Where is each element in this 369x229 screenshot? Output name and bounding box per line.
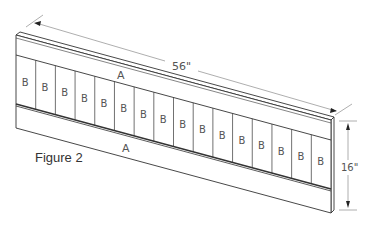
arrow-right-icon	[330, 108, 337, 113]
board-label: B	[317, 156, 324, 167]
board-label: B	[61, 87, 68, 98]
height-label: 16"	[341, 162, 358, 173]
board-label: B	[101, 98, 108, 109]
arrow-up-icon	[346, 123, 350, 130]
width-extension-right	[335, 104, 352, 115]
arrow-left-icon	[34, 21, 41, 26]
top-rail-label: A	[117, 69, 125, 82]
board-label: B	[160, 114, 167, 125]
board-label: B	[81, 93, 88, 104]
board-label: B	[297, 151, 304, 162]
width-extension-left	[26, 15, 43, 27]
board-label: B	[140, 109, 147, 120]
board-label: B	[258, 140, 265, 151]
board-label: B	[219, 130, 226, 141]
width-label: 56"	[172, 60, 191, 73]
board-label: B	[42, 82, 49, 93]
board-label: B	[179, 119, 186, 130]
bottom-rail-label: A	[122, 142, 130, 155]
board-label: B	[199, 124, 206, 135]
arrow-down-icon	[346, 201, 350, 208]
panel-diagram: 56" 16" BBBBBBBBBBBBBBBB A A Figure 2	[0, 0, 369, 229]
board-label: B	[278, 146, 285, 157]
board-label: B	[120, 103, 127, 114]
board-label: B	[22, 77, 29, 88]
figure-caption: Figure 2	[35, 150, 83, 165]
board-label: B	[238, 135, 245, 146]
